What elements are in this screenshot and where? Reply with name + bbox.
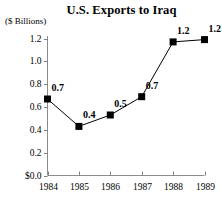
data-point-marker [44,96,51,103]
data-point-label: 0.4 [83,110,96,120]
y-axis-tick-label: 1.0 [0,56,42,66]
data-point-marker [170,38,177,45]
x-axis-ticks [49,172,206,176]
data-point-marker [75,123,82,130]
y-axis-tick-label: $0.0 [0,171,42,181]
data-point-label: 0.5 [114,99,127,109]
data-point-marker [138,93,145,100]
chart-container: U.S. Exports to Iraq ($ Billions) 1.21.0… [0,0,221,203]
y-axis-tick-label: 1.2 [0,34,42,44]
y-axis-ticks [44,40,48,177]
x-axis-tick-label: 1989 [186,182,222,192]
y-axis-tick-label: 0.6 [0,102,42,112]
y-axis-tick-label: 0.4 [0,125,42,135]
data-point-label: 1.2 [177,26,190,36]
data-point-label: 1.2 [209,24,222,34]
data-series-line [48,40,205,127]
data-point-marker [201,36,208,43]
data-point-label: 0.7 [52,83,65,93]
data-point-marker [107,112,114,119]
data-point-markers [44,36,208,130]
y-axis-tick-label: 0.8 [0,79,42,89]
y-axis-tick-label: 0.2 [0,148,42,158]
data-point-label: 0.7 [146,81,159,91]
